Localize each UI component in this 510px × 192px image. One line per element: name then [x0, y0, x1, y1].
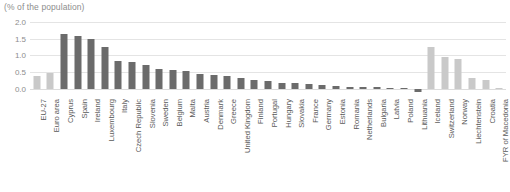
- bar[interactable]: [101, 47, 108, 89]
- x-axis-label-text: United Kingdom: [244, 99, 252, 153]
- bar-slot[interactable]: [57, 22, 71, 97]
- bar-slot[interactable]: [479, 22, 493, 97]
- x-axis-label-text: Croatia: [489, 99, 497, 123]
- bar-slot[interactable]: [220, 22, 234, 97]
- bar[interactable]: [319, 85, 326, 88]
- bar[interactable]: [33, 76, 40, 89]
- y-axis-tick-label: 1.5: [15, 34, 26, 43]
- x-axis-label-text: Ireland: [94, 99, 102, 122]
- bar[interactable]: [237, 78, 244, 89]
- bar[interactable]: [414, 89, 421, 92]
- x-axis-label-text: Romania: [353, 99, 361, 129]
- x-axis-labels: EU-27Euro areaCyprusSpainIrelandLuxembou…: [30, 99, 506, 192]
- x-axis-label-text: Switzerland: [448, 99, 456, 138]
- bar[interactable]: [183, 71, 190, 89]
- bar[interactable]: [373, 87, 380, 88]
- bar[interactable]: [468, 78, 475, 89]
- x-axis-label-text: Italy: [121, 99, 129, 113]
- bar-slot[interactable]: [71, 22, 85, 97]
- bar-slot[interactable]: [207, 22, 221, 97]
- bar-slot[interactable]: [261, 22, 275, 97]
- y-axis-tick-label: 0.5: [15, 68, 26, 77]
- bar-slot[interactable]: [438, 22, 452, 97]
- bar[interactable]: [224, 76, 231, 89]
- bar[interactable]: [292, 83, 299, 88]
- bar[interactable]: [305, 84, 312, 89]
- bar-slot[interactable]: [84, 22, 98, 97]
- bar-slot[interactable]: [193, 22, 207, 97]
- bar[interactable]: [441, 57, 448, 89]
- bar[interactable]: [60, 34, 67, 89]
- chart-title: (% of the population): [4, 2, 85, 12]
- bar-slot[interactable]: [180, 22, 194, 97]
- bar[interactable]: [387, 88, 394, 89]
- x-axis-label-text: Poland: [407, 99, 415, 123]
- bar-slot[interactable]: [302, 22, 316, 97]
- x-axis-label-text: Sweden: [162, 99, 170, 126]
- bar-slot[interactable]: [98, 22, 112, 97]
- bar-slot[interactable]: [166, 22, 180, 97]
- x-axis-label-text: Germany: [325, 99, 333, 130]
- x-axis-label-text: Estonia: [339, 99, 347, 124]
- x-axis-label-text: Greece: [230, 99, 238, 124]
- bar-slot[interactable]: [152, 22, 166, 97]
- bar-chart: (% of the population) 0.00.51.01.52.0 EU…: [0, 0, 510, 192]
- bar-slot[interactable]: [275, 22, 289, 97]
- x-axis-label-text: France: [312, 99, 320, 123]
- bar-slot[interactable]: [356, 22, 370, 97]
- bar-slot[interactable]: [343, 22, 357, 97]
- bar-slot[interactable]: [248, 22, 262, 97]
- bar-slot[interactable]: [411, 22, 425, 97]
- bar-slot[interactable]: [465, 22, 479, 97]
- x-axis-label-text: Latvia: [393, 99, 401, 119]
- bar-slot[interactable]: [112, 22, 126, 97]
- x-axis-label-text: Liechtenstein: [475, 99, 483, 144]
- bar[interactable]: [428, 47, 435, 89]
- bar[interactable]: [142, 65, 149, 88]
- bar-slot[interactable]: [125, 22, 139, 97]
- bar[interactable]: [128, 62, 135, 89]
- bar-slot[interactable]: [452, 22, 466, 97]
- bar-slot[interactable]: [492, 22, 506, 97]
- bar[interactable]: [482, 80, 489, 88]
- bar[interactable]: [278, 83, 285, 89]
- bar-slot[interactable]: [44, 22, 58, 97]
- bar[interactable]: [332, 86, 339, 89]
- x-axis-label-text: Slovakia: [298, 99, 306, 128]
- bar[interactable]: [455, 59, 462, 89]
- bar[interactable]: [264, 81, 271, 89]
- bar[interactable]: [346, 87, 353, 89]
- bar[interactable]: [496, 88, 503, 89]
- bar[interactable]: [115, 61, 122, 89]
- bar-slot[interactable]: [288, 22, 302, 97]
- bar[interactable]: [47, 73, 54, 89]
- x-axis-label-text: Malta: [189, 99, 197, 118]
- bar-slot[interactable]: [370, 22, 384, 97]
- x-axis-label-text: Denmark: [217, 99, 225, 130]
- bar[interactable]: [156, 69, 163, 88]
- bar-slot[interactable]: [316, 22, 330, 97]
- x-axis-label-text: Spain: [81, 99, 89, 118]
- bar[interactable]: [196, 74, 203, 89]
- bar[interactable]: [251, 80, 258, 89]
- x-axis-label-text: Euro area: [53, 99, 61, 132]
- bar[interactable]: [360, 87, 367, 89]
- bar[interactable]: [169, 70, 176, 88]
- bar[interactable]: [74, 36, 81, 89]
- x-axis-label-text: Czech Republic: [135, 99, 143, 152]
- y-axis-tick-label: 2.0: [15, 18, 26, 27]
- bar[interactable]: [210, 75, 217, 89]
- bar-slot[interactable]: [234, 22, 248, 97]
- y-axis-tick-label: 0.0: [15, 84, 26, 93]
- bar-slot[interactable]: [329, 22, 343, 97]
- bar-slot[interactable]: [30, 22, 44, 97]
- bar-slot[interactable]: [139, 22, 153, 97]
- bar-series: [30, 22, 506, 97]
- bar[interactable]: [88, 39, 95, 88]
- bar-slot[interactable]: [424, 22, 438, 97]
- bar-slot[interactable]: [397, 22, 411, 97]
- bar-slot[interactable]: [384, 22, 398, 97]
- bar[interactable]: [400, 88, 407, 89]
- x-axis-label-text: Lithuania: [421, 99, 429, 130]
- x-axis-label-text: Netherlands: [366, 99, 374, 140]
